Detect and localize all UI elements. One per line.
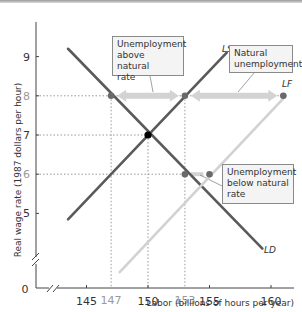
- y-tick-label: 6: [23, 168, 30, 181]
- annotation-line: Natural: [234, 48, 288, 59]
- curve-label-lf: LF: [282, 79, 293, 89]
- arrow-head-right: [170, 90, 179, 102]
- annotation-line: unemployment: [234, 59, 288, 70]
- y-axis-title: Real wage rate (1987 dollars per hour): [13, 83, 23, 258]
- y-axis-break-gap: [31, 257, 41, 264]
- origin-label: 0: [22, 283, 29, 296]
- y-tick-label: 7: [23, 129, 30, 142]
- arrow-unemployment-above-natural: [117, 90, 179, 102]
- arrow-natural-unemployment: [191, 90, 277, 102]
- annotation-line: below natural: [227, 178, 289, 189]
- point-lf-at-8: [280, 93, 287, 100]
- x-tick-label: 145: [76, 295, 97, 308]
- point-ld-at-6: [182, 171, 189, 178]
- leader-line-natural: [238, 73, 254, 92]
- y-tick-label: 9: [23, 51, 30, 64]
- annotation-below-natural: Unemployment below natural rate: [222, 164, 294, 204]
- point-equilibrium: [144, 131, 151, 138]
- annotation-natural-unemployment: Natural unemployment: [229, 45, 293, 73]
- x-axis-title: Labor (billions of hours per year): [147, 298, 294, 308]
- annotation-line: rate: [117, 72, 179, 83]
- annotation-line: Unemployment: [117, 39, 179, 50]
- x-highlight-tick-label: 147: [101, 294, 122, 307]
- arrow-head-right: [268, 90, 277, 102]
- curve-label-ld: LD: [264, 245, 276, 255]
- y-tick-label: 5: [23, 207, 30, 220]
- point-ld-at-8: [108, 93, 115, 100]
- annotation-line: rate: [227, 189, 289, 200]
- annotation-line: Unemployment: [227, 167, 289, 178]
- y-tick-label: 8: [23, 90, 30, 103]
- point-ls-at-8: [182, 93, 189, 100]
- annotation-line: above natural: [117, 50, 179, 72]
- annotation-above-natural: Unemployment above natural rate: [112, 36, 184, 76]
- point-lf-at-6: [206, 171, 213, 178]
- arrow-head-left: [191, 90, 200, 102]
